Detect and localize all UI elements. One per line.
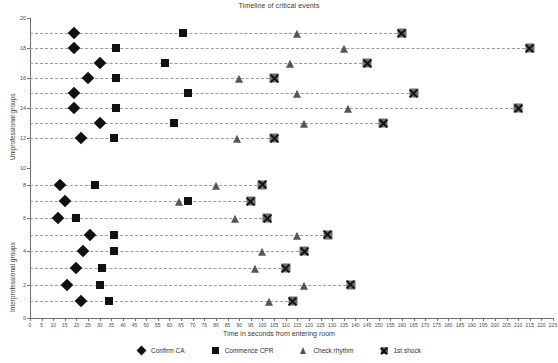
legend-square-x-icon	[380, 346, 389, 355]
marker-check-rhythm	[175, 198, 183, 206]
marker-first-shock	[270, 74, 279, 83]
marker-commence-cpr	[72, 214, 80, 222]
x-tick-label: 215	[526, 322, 534, 328]
x-tick	[251, 318, 252, 321]
x-tick-label: 55	[155, 322, 161, 328]
x-tick-label: 20	[74, 322, 80, 328]
y-tick-label: 10	[20, 165, 26, 171]
x-tick-label: 200	[491, 322, 499, 328]
x-tick-label: 115	[293, 322, 301, 328]
x-tick	[53, 318, 54, 321]
row-connector-line	[30, 93, 414, 94]
x-tick-label: 210	[514, 322, 522, 328]
x-tick	[193, 318, 194, 321]
x-tick	[344, 318, 345, 321]
x-tick-label: 130	[328, 322, 336, 328]
y-tick-label: 2	[23, 282, 26, 288]
marker-first-shock	[525, 44, 534, 53]
x-tick-label: 25	[85, 322, 91, 328]
marker-first-shock	[263, 214, 272, 223]
x-tick-label: 175	[433, 322, 441, 328]
legend-item[interactable]: Check rhythm	[299, 346, 353, 355]
legend-item[interactable]: Commence CPR	[211, 346, 274, 355]
marker-commence-cpr	[110, 134, 118, 142]
marker-commence-cpr	[91, 181, 99, 189]
x-tick	[274, 318, 275, 321]
x-tick	[425, 318, 426, 321]
x-tick-label: 35	[109, 322, 115, 328]
x-tick-label: 220	[537, 322, 545, 328]
x-tick	[239, 318, 240, 321]
x-tick	[65, 318, 66, 321]
marker-commence-cpr	[112, 74, 120, 82]
legend-item[interactable]: Confirm CA	[137, 346, 185, 355]
x-tick-label: 80	[213, 322, 219, 328]
x-tick	[402, 318, 403, 321]
marker-commence-cpr	[184, 197, 192, 205]
legend-label: 1st shock	[394, 347, 421, 354]
marker-check-rhythm	[235, 75, 243, 83]
marker-commence-cpr	[96, 281, 104, 289]
marker-check-rhythm	[231, 215, 239, 223]
x-tick	[437, 318, 438, 321]
marker-first-shock	[270, 134, 279, 143]
row-connector-line	[30, 108, 518, 109]
x-tick	[379, 318, 380, 321]
x-tick-label: 155	[386, 322, 394, 328]
marker-commence-cpr	[161, 59, 169, 67]
legend-triangle-icon	[299, 346, 308, 355]
chart-title: Timeline of critical events	[0, 2, 558, 9]
y-tick-label: 18	[20, 45, 26, 51]
x-tick-label: 30	[97, 322, 103, 328]
legend-item[interactable]: 1st shock	[380, 346, 421, 355]
x-tick-label: 135	[340, 322, 348, 328]
x-tick	[309, 318, 310, 321]
marker-first-shock	[346, 280, 355, 289]
y-axis-label-lower: Interprofessional groups	[9, 242, 16, 312]
marker-first-shock	[514, 104, 523, 113]
x-tick	[146, 318, 147, 321]
x-tick	[158, 318, 159, 321]
marker-check-rhythm	[265, 298, 273, 306]
marker-check-rhythm	[258, 248, 266, 256]
x-tick-label: 225	[549, 322, 557, 328]
x-tick-label: 120	[305, 322, 313, 328]
marker-commence-cpr	[110, 231, 118, 239]
x-tick	[30, 318, 31, 321]
x-tick-label: 145	[363, 322, 371, 328]
x-tick-label: 100	[258, 322, 266, 328]
x-tick-label: 125	[316, 322, 324, 328]
marker-first-shock	[288, 297, 297, 306]
x-tick	[286, 318, 287, 321]
x-tick-label: 45	[132, 322, 138, 328]
x-tick	[541, 318, 542, 321]
x-tick	[530, 318, 531, 321]
x-tick	[367, 318, 368, 321]
x-tick	[332, 318, 333, 321]
x-tick	[414, 318, 415, 321]
x-tick-label: 90	[236, 322, 242, 328]
x-tick-label: 190	[467, 322, 475, 328]
y-tick-label: 6	[23, 215, 26, 221]
y-tick-label: 0	[23, 315, 26, 321]
x-tick	[507, 318, 508, 321]
marker-check-rhythm	[340, 45, 348, 53]
x-tick	[321, 318, 322, 321]
marker-check-rhythm	[233, 135, 241, 143]
marker-first-shock	[323, 230, 332, 239]
x-tick	[135, 318, 136, 321]
marker-first-shock	[363, 59, 372, 68]
marker-commence-cpr	[179, 29, 187, 37]
x-tick-label: 170	[421, 322, 429, 328]
x-tick-label: 150	[374, 322, 382, 328]
x-tick-label: 95	[248, 322, 254, 328]
marker-first-shock	[258, 180, 267, 189]
x-tick	[228, 318, 229, 321]
row-connector-line	[30, 123, 383, 124]
x-tick	[495, 318, 496, 321]
legend-square-icon	[211, 346, 220, 355]
x-tick-label: 110	[282, 322, 290, 328]
marker-check-rhythm	[293, 90, 301, 98]
x-tick	[88, 318, 89, 321]
chart-legend: Confirm CACommence CPRCheck rhythm1st sh…	[0, 346, 558, 355]
